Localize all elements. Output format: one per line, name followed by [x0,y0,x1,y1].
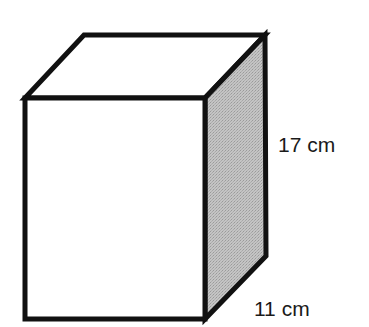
front-face [25,98,205,319]
depth-label: 11 cm [254,298,310,319]
height-label: 17 cm [278,134,335,155]
prism-diagram [0,0,369,327]
